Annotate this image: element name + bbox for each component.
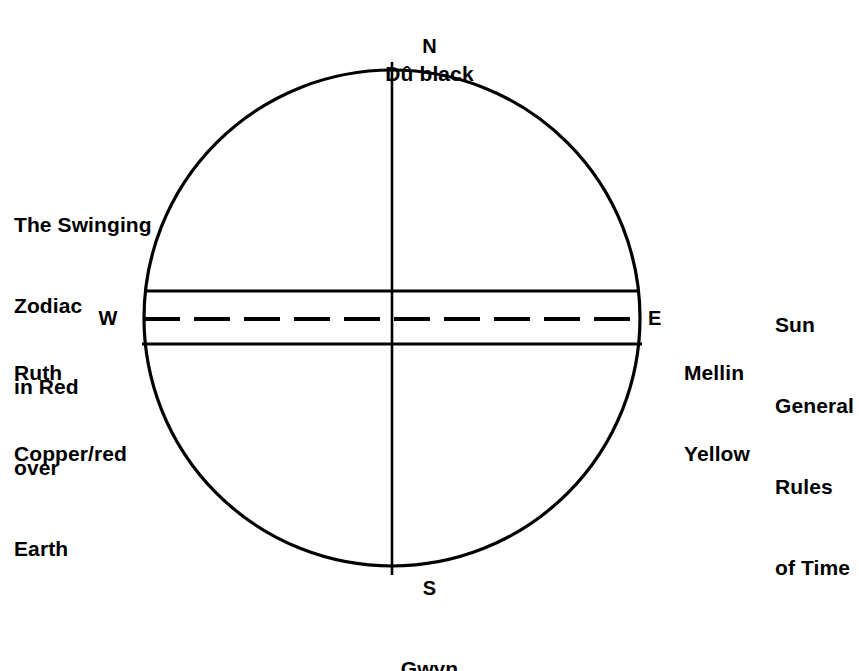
west-upper-label-line-5: Earth [14,535,194,562]
east-outer-label: Sun General Rules of Time [775,257,859,635]
east-outer-label-line-3: Rules [775,473,859,500]
east-inner-label-line-2: Yellow [684,440,770,467]
north-label: Dû black [0,6,859,141]
east-outer-label-line-1: Sun [775,311,859,338]
west-lower-label: Ruth Copper/red [14,305,154,521]
east-inner-label-line-1: Mellin [684,359,770,386]
west-upper-label-line-1: The Swinging [14,211,194,238]
west-lower-label-line-2: Copper/red [14,440,154,467]
diagram-canvas: Dû black N S Gwyn The White Fire W E The… [0,0,859,671]
east-outer-label-line-2: General [775,392,859,419]
cardinal-north: N [0,33,859,60]
east-inner-label: Mellin Yellow [684,305,770,521]
east-outer-label-line-4: of Time [775,554,859,581]
north-label-line-1: Dû black [0,60,859,87]
cardinal-east: E [648,305,678,332]
south-label-line-1: Gwyn [0,655,859,671]
west-lower-label-line-1: Ruth [14,359,154,386]
